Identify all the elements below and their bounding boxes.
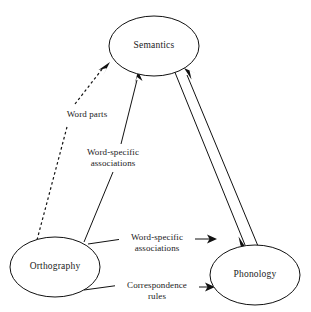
word-specific-mid-line1: Word-specific <box>131 232 183 242</box>
node-phonology[interactable]: Phonology <box>210 245 300 305</box>
diagram-canvas: Semantics Orthography Phonology Word par… <box>0 0 311 312</box>
phonology-label: Phonology <box>234 269 277 279</box>
edge-line-orthography-assoc-upper <box>120 80 137 148</box>
edge-label-correspondence: Correspondence rules <box>115 277 199 303</box>
correspondence-line1: Correspondence <box>127 280 187 290</box>
word-specific-upper-line2: associations <box>91 158 136 168</box>
edge-line-word-parts-upper <box>75 68 103 104</box>
arrowhead-into-semantics-word-parts <box>99 62 111 76</box>
orthography-label: Orthography <box>30 261 81 271</box>
edge-label-word-specific-mid: Word-specific associations <box>119 229 195 255</box>
word-specific-mid-line2: associations <box>135 243 180 253</box>
word-specific-upper-line1: Word-specific <box>87 147 139 157</box>
node-semantics[interactable]: Semantics <box>109 16 199 76</box>
edge-line-phonology-to-semantics <box>187 75 258 246</box>
arrowhead-into-semantics-from-phonology <box>184 68 198 80</box>
correspondence-line2: rules <box>148 291 166 301</box>
edge-label-word-specific-upper: Word-specific associations <box>75 144 151 170</box>
edge-semantics-to-phonology <box>174 70 246 248</box>
node-orthography[interactable]: Orthography <box>10 237 100 297</box>
edge-phonology-to-semantics <box>184 68 258 246</box>
edge-line-word-parts-lower <box>37 127 67 240</box>
semantics-label: Semantics <box>134 40 175 50</box>
edge-label-word-parts: Word parts <box>56 106 118 120</box>
word-parts-label: Word parts <box>67 109 108 119</box>
edge-line-orthography-assoc-lower <box>84 172 113 242</box>
edge-line-semantics-to-phonology <box>174 70 245 245</box>
diagram-svg: Semantics Orthography Phonology Word par… <box>0 0 311 312</box>
